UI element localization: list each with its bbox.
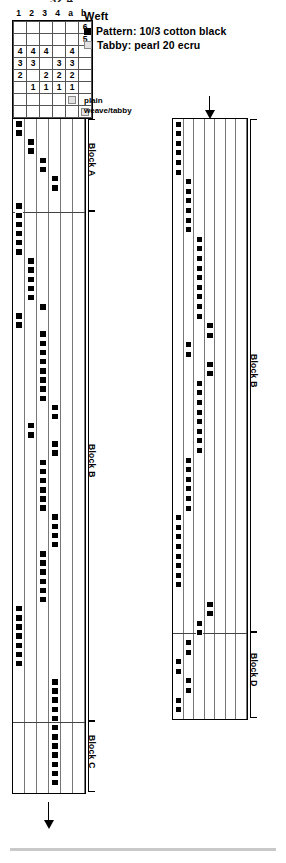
tieup-cell-filled[interactable]: 3 xyxy=(53,58,66,70)
pattern-mark[interactable] xyxy=(39,568,47,576)
pattern-mark[interactable] xyxy=(39,349,47,357)
pattern-mark[interactable] xyxy=(39,376,47,384)
pattern-mark[interactable] xyxy=(185,466,192,473)
pattern-mark[interactable] xyxy=(51,733,59,741)
pattern-mark[interactable] xyxy=(39,330,47,338)
tieup-cell-empty[interactable] xyxy=(53,34,66,46)
pattern-mark[interactable] xyxy=(175,524,182,531)
pattern-mark[interactable] xyxy=(175,533,182,540)
pattern-mark[interactable] xyxy=(15,248,23,256)
pattern-mark[interactable] xyxy=(196,389,203,396)
pattern-mark[interactable] xyxy=(196,428,203,435)
pattern-mark[interactable] xyxy=(39,559,47,567)
pattern-mark[interactable] xyxy=(51,513,59,521)
pattern-mark[interactable] xyxy=(15,623,23,631)
pattern-mark[interactable] xyxy=(51,175,59,183)
pattern-mark[interactable] xyxy=(39,596,47,604)
pattern-mark[interactable] xyxy=(196,629,203,636)
pattern-mark[interactable] xyxy=(27,276,35,284)
pattern-mark[interactable] xyxy=(185,197,192,204)
pattern-mark[interactable] xyxy=(51,523,59,531)
pattern-mark[interactable] xyxy=(185,226,192,233)
tieup-cell-empty[interactable] xyxy=(27,70,40,82)
tieup-cell-empty[interactable] xyxy=(66,106,79,118)
pattern-mark[interactable] xyxy=(185,207,192,214)
pattern-mark[interactable] xyxy=(175,140,182,147)
pattern-mark[interactable] xyxy=(51,779,59,787)
pattern-mark[interactable] xyxy=(185,687,192,694)
tieup-cell-filled[interactable]: 4 xyxy=(27,46,40,58)
tieup-cell-empty[interactable] xyxy=(79,58,92,70)
pattern-mark[interactable] xyxy=(175,130,182,137)
tieup-cell-empty[interactable] xyxy=(14,34,27,46)
pattern-mark[interactable] xyxy=(39,468,47,476)
pattern-mark[interactable] xyxy=(27,257,35,265)
pattern-mark[interactable] xyxy=(15,632,23,640)
pattern-mark[interactable] xyxy=(39,340,47,348)
pattern-mark[interactable] xyxy=(39,486,47,494)
tieup-cell-empty[interactable] xyxy=(66,34,79,46)
pattern-mark[interactable] xyxy=(185,505,192,512)
pattern-mark[interactable] xyxy=(175,553,182,560)
pattern-mark[interactable] xyxy=(175,543,182,550)
tieup-cell-filled[interactable]: 1 xyxy=(27,82,40,94)
pattern-mark[interactable] xyxy=(39,367,47,375)
pattern-mark[interactable] xyxy=(185,677,192,684)
pattern-mark[interactable] xyxy=(185,457,192,464)
tieup-cell-empty[interactable] xyxy=(27,22,40,34)
tieup-cell-empty[interactable] xyxy=(53,22,66,34)
pattern-mark[interactable] xyxy=(196,437,203,444)
tieup-cell-filled[interactable]: 3 xyxy=(66,58,79,70)
pattern-mark[interactable] xyxy=(51,696,59,704)
pattern-mark[interactable] xyxy=(15,120,23,128)
tieup-cell-empty[interactable] xyxy=(14,82,27,94)
pattern-mark[interactable] xyxy=(15,642,23,650)
pattern-mark[interactable] xyxy=(175,581,182,588)
pattern-mark[interactable] xyxy=(51,678,59,686)
pattern-mark[interactable] xyxy=(51,687,59,695)
pattern-mark[interactable] xyxy=(39,303,47,311)
pattern-mark[interactable] xyxy=(206,601,213,608)
tieup-cell-empty[interactable] xyxy=(14,22,27,34)
pattern-mark[interactable] xyxy=(51,770,59,778)
pattern-mark[interactable] xyxy=(27,285,35,293)
tieup-cell-empty[interactable] xyxy=(27,34,40,46)
pattern-mark[interactable] xyxy=(51,751,59,759)
pattern-mark[interactable] xyxy=(196,255,203,262)
pattern-mark[interactable] xyxy=(175,668,182,675)
pattern-mark[interactable] xyxy=(39,477,47,485)
pattern-mark[interactable] xyxy=(51,449,59,457)
pattern-mark[interactable] xyxy=(27,431,35,439)
pattern-mark[interactable] xyxy=(206,370,213,377)
pattern-mark[interactable] xyxy=(185,485,192,492)
pattern-mark[interactable] xyxy=(39,504,47,512)
pattern-mark[interactable] xyxy=(51,413,59,421)
pattern-mark[interactable] xyxy=(196,620,203,627)
pattern-mark[interactable] xyxy=(15,129,23,137)
pattern-mark[interactable] xyxy=(39,385,47,393)
pattern-mark[interactable] xyxy=(39,358,47,366)
pattern-mark[interactable] xyxy=(206,332,213,339)
tieup-cell-filled[interactable]: 2 xyxy=(53,70,66,82)
pattern-mark[interactable] xyxy=(175,121,182,128)
pattern-mark[interactable] xyxy=(206,361,213,368)
tieup-cell-empty[interactable] xyxy=(40,58,53,70)
tieup-cell-filled[interactable]: 4 xyxy=(66,46,79,58)
pattern-mark[interactable] xyxy=(175,706,182,713)
tieup-cell-filled[interactable]: 3 xyxy=(14,58,27,70)
pattern-mark[interactable] xyxy=(196,293,203,300)
pattern-mark[interactable] xyxy=(15,312,23,320)
pattern-mark[interactable] xyxy=(39,157,47,165)
pattern-mark[interactable] xyxy=(39,395,47,403)
pattern-mark[interactable] xyxy=(196,409,203,416)
pattern-mark[interactable] xyxy=(51,184,59,192)
tieup-cell-empty[interactable] xyxy=(14,94,27,106)
pattern-mark[interactable] xyxy=(15,614,23,622)
pattern-mark[interactable] xyxy=(185,476,192,483)
pattern-mark[interactable] xyxy=(196,447,203,454)
pattern-mark[interactable] xyxy=(175,169,182,176)
pattern-mark[interactable] xyxy=(39,587,47,595)
pattern-mark[interactable] xyxy=(51,404,59,412)
pattern-mark[interactable] xyxy=(196,265,203,272)
pattern-mark[interactable] xyxy=(185,649,192,656)
